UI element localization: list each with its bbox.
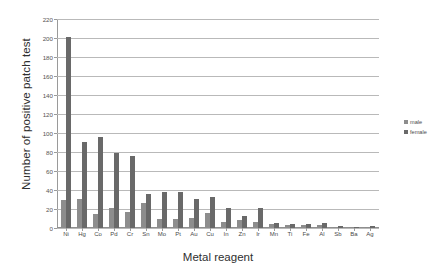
y-axis-tick-label: 120	[43, 111, 53, 118]
bar-group	[314, 19, 330, 228]
male-swatch-icon	[404, 120, 408, 124]
legend-item: female	[404, 129, 427, 135]
y-axis-tick-label: 160	[43, 73, 53, 80]
y-axis-tick-label: 20	[46, 206, 53, 213]
legend-label: male	[410, 119, 422, 125]
legend-item: male	[404, 119, 427, 125]
bar-female	[226, 208, 231, 228]
x-axis-tick-label: Sb	[330, 231, 346, 237]
y-axis-tick-label: 80	[46, 149, 53, 156]
x-axis-tick-label: Mo	[154, 231, 170, 237]
bar-group	[186, 19, 202, 228]
bar-group	[218, 19, 234, 228]
bar-group	[330, 19, 346, 228]
bar-group	[138, 19, 154, 228]
bar-female	[146, 194, 151, 228]
bar-group	[298, 19, 314, 228]
y-axis-title: Number of positive patch test	[20, 14, 32, 214]
bar-female	[210, 197, 215, 228]
x-axis-tick-label: Pd	[106, 231, 122, 237]
x-axis-tick-label: Cu	[202, 231, 218, 237]
x-axis-tick-label: Co	[90, 231, 106, 237]
x-axis-tick-label: Mn	[266, 231, 282, 237]
bar-female	[258, 208, 263, 228]
bar-group	[234, 19, 250, 228]
plot-area: 020406080100120140160180200220	[57, 19, 379, 228]
x-axis-tick-label: Pt	[170, 231, 186, 237]
x-axis-tick-label: Cr	[122, 231, 138, 237]
bar-chart: Number of positive patch test 0204060801…	[0, 0, 447, 280]
bar-group	[282, 19, 298, 228]
bar-group	[170, 19, 186, 228]
bar-group	[250, 19, 266, 228]
bar-female	[178, 192, 183, 228]
bar-female	[162, 192, 167, 228]
y-axis-tick-label: 200	[43, 35, 53, 42]
bar-group	[90, 19, 106, 228]
bar-female	[242, 216, 247, 228]
x-axis-tick-label: Al	[314, 231, 330, 237]
y-axis-tick-label: 0	[50, 225, 53, 232]
x-axis-title: Metal reagent	[57, 251, 379, 263]
y-axis-tick-label: 100	[43, 130, 53, 137]
bar-female	[114, 153, 119, 228]
bar-groups	[57, 19, 379, 228]
y-axis-tick-label: 180	[43, 54, 53, 61]
chart-legend: malefemale	[404, 119, 427, 135]
x-axis-tick-label: Ba	[346, 231, 362, 237]
bar-group	[154, 19, 170, 228]
x-axis-tick-label: Au	[186, 231, 202, 237]
bar-group	[362, 19, 378, 228]
x-axis-tick-label: In	[218, 231, 234, 237]
bar-female	[194, 199, 199, 228]
bar-female	[66, 37, 71, 228]
x-axis-tick-label: Ni	[58, 231, 74, 237]
x-axis-tick-label: Hg	[74, 231, 90, 237]
x-axis-tick-label: Sn	[138, 231, 154, 237]
female-swatch-icon	[404, 130, 408, 134]
x-axis-tick-label: Zn	[234, 231, 250, 237]
bar-group	[106, 19, 122, 228]
bar-group	[122, 19, 138, 228]
bar-group	[74, 19, 90, 228]
bar-female	[82, 142, 87, 228]
legend-label: female	[410, 129, 427, 135]
x-axis-labels: NiHgCoPdCrSnMoPtAuCuInZnIrMnTiFeAlSbBaAg	[57, 231, 379, 237]
y-axis-tick-label: 220	[43, 16, 53, 23]
x-axis-tick-label: Ir	[250, 231, 266, 237]
x-axis-tick-label: Ti	[282, 231, 298, 237]
bar-group	[346, 19, 362, 228]
bar-female	[130, 156, 135, 228]
x-axis-tick-label: Ag	[362, 231, 378, 237]
bar-group	[266, 19, 282, 228]
y-axis-tick-label: 40	[46, 187, 53, 194]
y-axis-tick-label: 60	[46, 168, 53, 175]
x-axis-tick-label: Fe	[298, 231, 314, 237]
bar-group	[58, 19, 74, 228]
bar-group	[202, 19, 218, 228]
bar-female	[98, 137, 103, 228]
y-axis-tick-label: 140	[43, 92, 53, 99]
